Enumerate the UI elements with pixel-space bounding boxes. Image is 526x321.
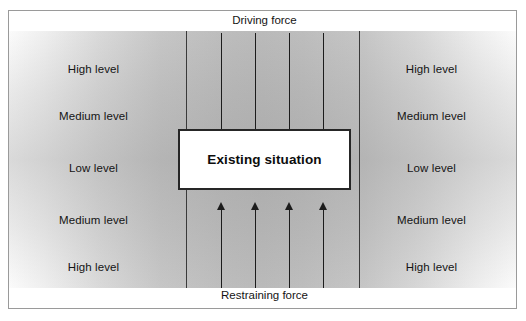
arrow-head-up-icon xyxy=(319,202,327,210)
existing-situation-box: Existing situation xyxy=(178,129,351,190)
arrow-shaft xyxy=(323,210,324,288)
level-label-left-high-top: High level xyxy=(9,63,178,75)
existing-situation-label: Existing situation xyxy=(207,152,321,167)
restraining-force-arrow xyxy=(285,202,294,288)
diagram-frame: High level Medium level Low level Medium… xyxy=(8,10,517,309)
arrow-head-up-icon xyxy=(217,202,225,210)
restraining-force-caption: Restraining force xyxy=(178,289,351,301)
level-label-left-medium-top: Medium level xyxy=(9,110,178,122)
restraining-force-arrow xyxy=(251,202,260,288)
level-column-right: High level Medium level Low level Medium… xyxy=(347,31,516,288)
driving-force-caption: Driving force xyxy=(178,14,351,26)
restraining-force-arrow xyxy=(217,202,226,288)
arrow-head-up-icon xyxy=(251,202,259,210)
driving-force-arrow xyxy=(319,33,328,137)
level-label-right-high-top: High level xyxy=(347,63,516,75)
arrow-shaft xyxy=(289,33,290,130)
arrow-shaft xyxy=(289,210,290,288)
arrow-shaft xyxy=(323,33,324,130)
level-label-right-medium-bottom: Medium level xyxy=(347,214,516,226)
driving-force-arrow xyxy=(251,33,260,137)
driving-force-arrow xyxy=(285,33,294,137)
level-label-left-medium-bottom: Medium level xyxy=(9,214,178,226)
level-label-left-low: Low level xyxy=(9,162,178,174)
driving-force-arrow xyxy=(217,33,226,137)
level-label-right-high-bottom: High level xyxy=(347,261,516,273)
arrow-shaft xyxy=(255,33,256,130)
level-column-left: High level Medium level Low level Medium… xyxy=(9,31,178,288)
level-label-right-low: Low level xyxy=(347,162,516,174)
center-rail-right xyxy=(359,31,360,288)
arrow-shaft xyxy=(221,210,222,288)
restraining-force-arrow xyxy=(319,202,328,288)
arrow-shaft xyxy=(255,210,256,288)
level-label-right-medium-top: Medium level xyxy=(347,110,516,122)
diagram-canvas: High level Medium level Low level Medium… xyxy=(0,0,526,321)
arrow-shaft xyxy=(221,33,222,130)
arrow-head-up-icon xyxy=(285,202,293,210)
level-label-left-high-bottom: High level xyxy=(9,261,178,273)
